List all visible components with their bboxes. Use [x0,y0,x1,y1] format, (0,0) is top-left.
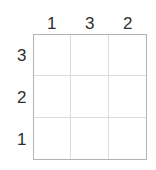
grid-cell-value [34,35,70,75]
puzzle-container: 1 3 2 3 2 1 [0,0,156,170]
puzzle-grid [33,34,147,160]
grid-cell-r3c2[interactable] [71,118,108,159]
row-clue-strip: 3 2 1 [2,34,28,160]
row-clue-1: 3 [2,34,28,76]
grid-cell-r1c1[interactable] [34,35,71,76]
grid-cell-r3c1[interactable] [34,118,71,159]
column-clue-1: 1 [33,8,71,32]
column-clue-strip: 1 3 2 [33,8,147,32]
grid-cell-r2c1[interactable] [34,76,71,117]
grid-cell-value [109,118,146,159]
grid-cell-r2c2[interactable] [71,76,108,117]
column-clue-2: 3 [71,8,109,32]
grid-cell-value [34,76,70,116]
row-clue-3: 1 [2,118,28,160]
grid-cell-value [71,76,107,116]
row-clue-2: 2 [2,76,28,118]
grid-cell-value [34,118,70,159]
grid-cell-r3c3[interactable] [109,118,146,159]
grid-cell-value [109,76,146,116]
grid-cell-r1c3[interactable] [109,35,146,76]
grid-cell-value [71,118,107,159]
column-clue-3: 2 [109,8,147,32]
grid-cell-r1c2[interactable] [71,35,108,76]
grid-cell-value [109,35,146,75]
grid-cell-r2c3[interactable] [109,76,146,117]
grid-cell-value [71,35,107,75]
